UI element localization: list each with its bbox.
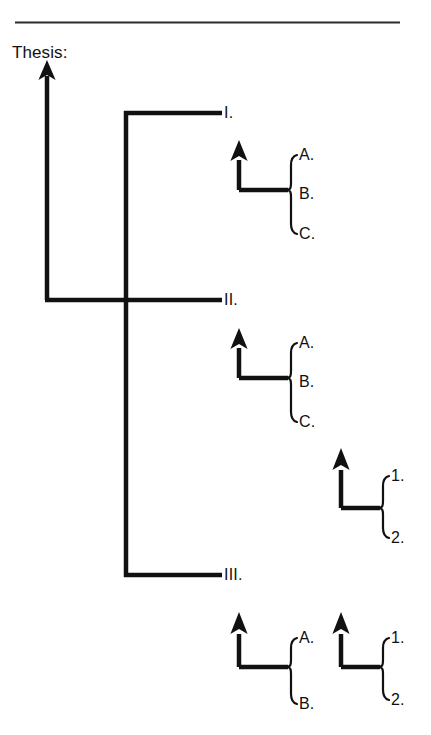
section-2-item-c: C. <box>299 414 315 430</box>
outline-tree-graphic <box>0 0 431 735</box>
section-2-brace <box>286 343 297 422</box>
section-2-item-a: A. <box>299 335 315 351</box>
section-1-subgroup-connector <box>230 140 288 190</box>
thesis-label: Thesis: <box>12 44 68 61</box>
section-3-extra-connector <box>332 612 380 667</box>
section-1-item-c: C. <box>299 226 315 242</box>
thesis-arrow <box>38 60 55 300</box>
section-2-extra-connector <box>332 448 380 508</box>
section-2-subgroup-connector <box>230 328 288 378</box>
section-3-brace <box>286 638 297 704</box>
section-3-subgroup-connector <box>230 612 288 667</box>
section-3-item-a: A. <box>299 630 315 646</box>
section-1-brace <box>286 155 297 234</box>
section-3-item-b: B. <box>299 696 315 712</box>
section-numeral-3: III. <box>224 567 243 583</box>
diagram-page: . <box>0 0 431 735</box>
section-2-extra-item-2: 2. <box>391 530 405 546</box>
section-1-item-b: B. <box>299 186 315 202</box>
section-numeral-2: II. <box>224 292 238 308</box>
section-3-extra-item-2: 2. <box>391 692 405 708</box>
section-numeral-1: I. <box>224 105 233 121</box>
section-2-extra-brace <box>378 476 389 538</box>
section-1-item-a: A. <box>299 147 315 163</box>
section-2-extra-item-1: 1. <box>391 468 405 484</box>
section-2-item-b: B. <box>299 374 315 390</box>
section-3-extra-item-1: 1. <box>391 630 405 646</box>
